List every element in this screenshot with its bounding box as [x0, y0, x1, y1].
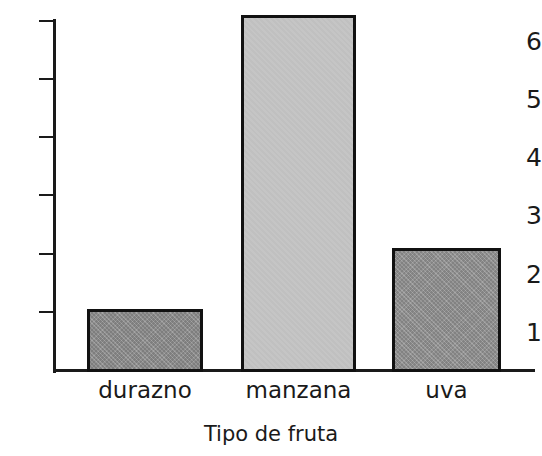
bar-uva[interactable]: [392, 248, 501, 372]
x-axis-label-manzana: manzana: [211, 377, 386, 405]
x-axis-label-uva: uva: [362, 377, 531, 405]
x-axis-label-durazno: durazno: [57, 377, 233, 405]
x-axis-title: Tipo de fruta: [0, 422, 542, 447]
bar-manzana[interactable]: [241, 15, 356, 372]
bar-durazno[interactable]: [87, 309, 203, 372]
bar-chart: 123456 duraznomanzanauva Tipo de fruta: [0, 0, 542, 456]
